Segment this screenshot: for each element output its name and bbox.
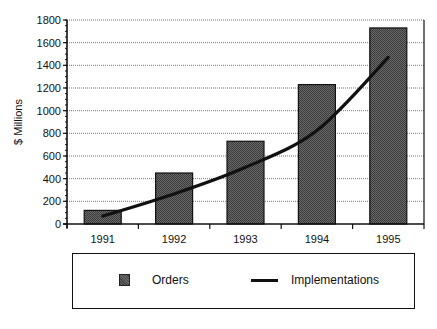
y-tick-label: 600 — [43, 150, 61, 162]
legend-label-orders: Orders — [152, 273, 189, 287]
y-tick-label: 200 — [43, 195, 61, 207]
bar-1994 — [298, 85, 335, 224]
legend-swatch-orders — [119, 274, 130, 286]
legend-label-implementations: Implementations — [291, 273, 379, 287]
legend-item-implementations: Implementations — [251, 273, 379, 287]
y-axis-label: $ Millions — [12, 99, 24, 145]
y-tick-label: 800 — [43, 127, 61, 139]
y-tick-label: 1200 — [37, 82, 61, 94]
x-tick-label: 1992 — [162, 233, 186, 245]
x-tick-labels: 19911992199319941995 — [90, 233, 400, 245]
y-tick-label: 400 — [43, 173, 61, 185]
legend: Orders Implementations — [72, 253, 415, 309]
x-tick-label: 1995 — [376, 233, 400, 245]
legend-item-orders: Orders — [119, 273, 189, 287]
y-tick-label: 1800 — [37, 14, 61, 26]
y-tick-label: 1000 — [37, 105, 61, 117]
x-tick-label: 1991 — [90, 233, 114, 245]
y-tick-labels: 020040060080010001200140016001800 — [37, 14, 61, 230]
y-tick-label: 0 — [55, 218, 61, 230]
x-tick-label: 1993 — [233, 233, 257, 245]
y-tick-label: 1600 — [37, 37, 61, 49]
x-tick-label: 1994 — [305, 233, 329, 245]
bar-series-orders — [84, 28, 407, 224]
legend-swatch-implementations — [251, 279, 278, 282]
bar-1993 — [227, 141, 264, 224]
y-tick-label: 1400 — [37, 59, 61, 71]
